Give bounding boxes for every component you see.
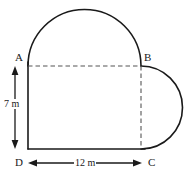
vertex-label-B: B <box>144 52 151 63</box>
figure-canvas <box>0 0 192 174</box>
width-dimension-label: 12 m <box>74 158 96 168</box>
top-semicircle-arc <box>28 10 141 67</box>
geometry-figure: A B C D 7 m 12 m <box>0 0 192 174</box>
height-arrowhead-top <box>12 66 19 75</box>
height-dimension-label: 7 m <box>3 99 20 109</box>
width-arrowhead-right <box>133 160 142 167</box>
vertex-label-A: A <box>15 52 23 63</box>
height-arrowhead-bottom <box>12 140 19 149</box>
vertex-label-C: C <box>148 157 155 168</box>
vertex-label-D: D <box>15 157 23 168</box>
width-arrowhead-left <box>28 160 37 167</box>
right-semicircle-arc <box>141 66 182 149</box>
